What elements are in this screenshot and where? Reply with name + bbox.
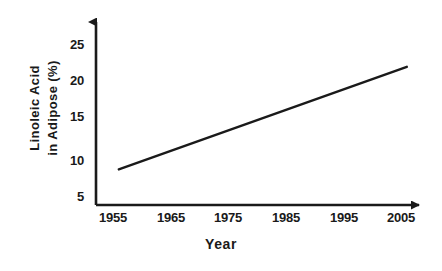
y-axis-title-line-2: in Adipose (%): [44, 28, 204, 188]
x-tick-label-2005: 2005: [387, 210, 415, 225]
y-axis-title: Linoleic Acid in Adipose (%): [8, 28, 64, 188]
x-tick-label-1995: 1995: [330, 210, 358, 225]
x-tick-label-1955: 1955: [99, 210, 127, 225]
y-tick-label-5: 5: [54, 189, 84, 204]
x-tick-label-1985: 1985: [272, 210, 300, 225]
x-tick-label-1965: 1965: [157, 210, 185, 225]
linoleic-acid-line-chart: 25 20 15 10 5 1955 1965 1975 1985 1995 2…: [0, 0, 442, 271]
x-axis-title: Year: [0, 236, 442, 252]
x-tick-label-1975: 1975: [214, 210, 242, 225]
